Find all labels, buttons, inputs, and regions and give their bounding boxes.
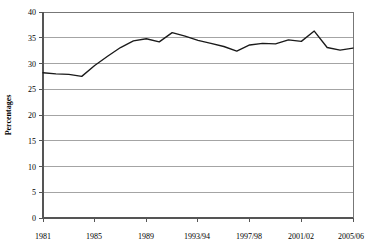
y-axis-title: Percentages	[4, 95, 13, 136]
y-label-10: 10	[28, 163, 36, 172]
chart-container: 40 35 30 25 20 15 10 5 0 1981 1985 1989 …	[0, 0, 374, 251]
y-label-35: 35	[28, 34, 36, 43]
x-label-2001-02: 2001/02	[288, 232, 314, 241]
x-label-1985: 1985	[86, 232, 102, 241]
x-label-1981: 1981	[35, 232, 51, 241]
x-label-1989: 1989	[138, 232, 154, 241]
x-label-1997-98: 1997/98	[236, 232, 262, 241]
y-label-30: 30	[28, 60, 36, 69]
y-label-15: 15	[28, 137, 36, 146]
y-label-20: 20	[28, 111, 36, 120]
y-label-40: 40	[28, 8, 36, 17]
y-label-0: 0	[32, 214, 36, 223]
y-label-5: 5	[32, 188, 36, 197]
x-label-2005-06: 2005/06	[338, 232, 364, 241]
y-label-25: 25	[28, 85, 36, 94]
x-label-1993-94: 1993/94	[184, 232, 210, 241]
line-chart: 40 35 30 25 20 15 10 5 0 1981 1985 1989 …	[0, 0, 374, 251]
